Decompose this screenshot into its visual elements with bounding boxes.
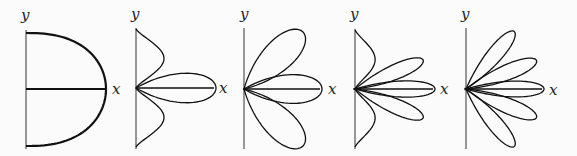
rose-petal	[466, 89, 537, 120]
rose-petal	[355, 58, 423, 89]
rose-petal	[244, 29, 306, 89]
panel-1-x-label: x	[112, 80, 121, 98]
rose-petal	[466, 58, 537, 89]
panel-5-y-label: y	[460, 5, 470, 23]
half-lobe-bottom	[355, 89, 375, 147]
panel-5-x-label: x	[549, 81, 558, 99]
panel-1-y-label: y	[20, 6, 30, 24]
half-lobe-top	[355, 30, 375, 89]
panel-4-x-label: x	[440, 80, 449, 98]
rose-curves-figure: y x y x y x y x y x	[0, 0, 577, 156]
panel-3-y-label: y	[239, 5, 249, 23]
panel-2-y-label: y	[130, 5, 140, 23]
panel-4-y-label: y	[349, 5, 359, 23]
half-lobe-top	[136, 29, 164, 88]
rose-petal	[244, 89, 306, 149]
half-lobe-bottom	[136, 88, 164, 147]
rose-petal	[355, 89, 423, 120]
panel-3-x-label: x	[328, 80, 337, 98]
panel-2-x-label: x	[219, 79, 228, 97]
